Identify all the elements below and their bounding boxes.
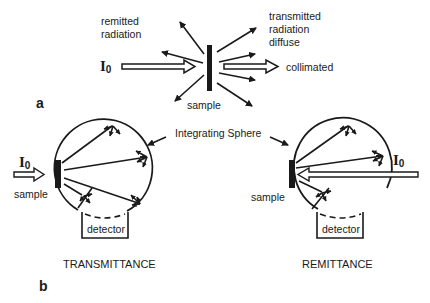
ray-right-2 bbox=[296, 156, 382, 168]
sphere-pointer-left bbox=[148, 137, 166, 145]
panel-a: remitted radiation transmitted radiation… bbox=[36, 10, 333, 111]
sphere-pointer-right bbox=[270, 137, 288, 145]
transmitted-radiation-label-line2: radiation bbox=[269, 23, 309, 35]
sample-label-left: sample bbox=[14, 188, 48, 200]
scatter-arrows-left bbox=[78, 126, 147, 208]
detector-port-left bbox=[85, 214, 125, 218]
detector-label-left: detector bbox=[87, 223, 125, 235]
remittance-setup: detector sample I0 bbox=[251, 118, 418, 270]
transmitted-radiation-label-line1: transmitted bbox=[269, 10, 321, 22]
incident-intensity-label-right: I0 bbox=[393, 152, 405, 169]
remitted-radiation-arrows bbox=[162, 22, 204, 101]
detector-port-right bbox=[320, 214, 361, 218]
panel-label-a: a bbox=[36, 95, 44, 111]
collimated-label: collimated bbox=[286, 61, 333, 73]
transmittance-title: TRANSMITTANCE bbox=[63, 258, 156, 270]
sample-bar-left bbox=[55, 160, 61, 188]
sample-label: sample bbox=[187, 99, 221, 111]
sample-label-right: sample bbox=[251, 191, 285, 203]
ray-right-1 bbox=[296, 126, 348, 163]
ray-left-4 bbox=[64, 184, 82, 195]
remittance-title: REMITTANCE bbox=[302, 258, 373, 270]
remitted-radiation-label-line2: radiation bbox=[101, 28, 141, 40]
sample-bar-right bbox=[289, 160, 295, 188]
panel-label-b: b bbox=[39, 278, 48, 294]
integrating-sphere-diagram: remitted radiation transmitted radiation… bbox=[0, 0, 430, 303]
integrating-sphere-right bbox=[294, 118, 392, 209]
ray-right-3 bbox=[299, 181, 322, 192]
incident-intensity-label: I0 bbox=[100, 58, 112, 75]
transmittance-setup: detector sample I0 bbox=[14, 119, 156, 270]
collimated-beam-arrow bbox=[224, 60, 278, 73]
detector-label-right: detector bbox=[322, 223, 360, 235]
ray-left-2 bbox=[64, 157, 147, 170]
integrating-sphere-label: Integrating Sphere bbox=[175, 127, 262, 139]
sample-bar bbox=[207, 45, 212, 91]
scatter-arrows-right bbox=[312, 126, 383, 209]
incident-intensity-label-left: I0 bbox=[19, 154, 31, 171]
panel-b: Integrating Sphere detector sample I0 bbox=[14, 118, 418, 294]
incident-beam-arrow bbox=[122, 60, 195, 73]
remitted-radiation-label-line1: remitted bbox=[101, 15, 139, 27]
incident-beam-arrow-right bbox=[298, 168, 418, 181]
transmitted-diffuse-label: diffuse bbox=[269, 36, 300, 48]
